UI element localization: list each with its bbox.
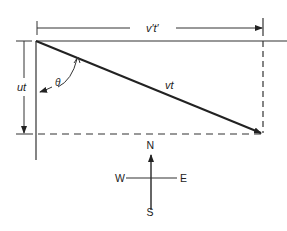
compass-east-label: E [180, 172, 187, 184]
theta-arc [58, 59, 77, 87]
vt-vector [36, 41, 261, 133]
vector-diagram: v′t′ vt ut θ N S E W [0, 0, 287, 231]
vprime-tprime-label: v′t′ [146, 22, 160, 34]
ut-label: ut [17, 81, 27, 93]
compass-south-label: S [147, 206, 154, 218]
compass-rose [126, 155, 177, 210]
compass-north-label: N [147, 139, 155, 151]
vt-label: vt [165, 79, 175, 91]
theta-label: θ [55, 77, 61, 88]
compass-west-label: W [115, 172, 125, 184]
